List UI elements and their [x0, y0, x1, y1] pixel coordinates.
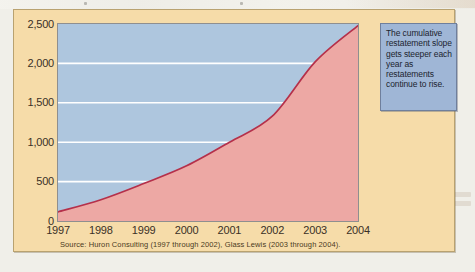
x-tick-label: 2002	[252, 224, 292, 236]
scan-speck	[240, 2, 243, 5]
scan-tint	[345, 0, 475, 8]
y-tick-label: 2,000	[14, 58, 54, 69]
callout-box: The cumulative restatement slope gets st…	[380, 23, 457, 111]
x-axis: 19971998199920002001200220032004	[57, 224, 359, 238]
y-tick-label: 2,500	[14, 19, 54, 30]
source-note: Source: Huron Consulting (1997 through 2…	[60, 240, 340, 249]
chart-panel: 05001,0001,5002,0002,500 199719981999200…	[13, 9, 455, 252]
x-tick-label: 2001	[209, 224, 249, 236]
y-tick-label: 1,000	[14, 137, 54, 148]
y-tick-label: 500	[14, 176, 54, 187]
scan-speck	[84, 2, 87, 5]
x-tick-label: 1999	[124, 224, 164, 236]
y-axis: 05001,0001,5002,0002,500	[14, 23, 54, 222]
y-tick-label: 1,500	[14, 97, 54, 108]
x-tick-label: 1998	[81, 224, 121, 236]
page-canvas: 05001,0001,5002,0002,500 199719981999200…	[0, 0, 475, 272]
callout-text: The cumulative restatement slope gets st…	[386, 28, 452, 90]
x-tick-label: 2004	[338, 224, 378, 236]
x-tick-label: 2000	[167, 224, 207, 236]
area-chart-svg	[58, 24, 358, 221]
area-fill	[58, 26, 358, 221]
plot-area	[57, 23, 359, 222]
x-tick-label: 2003	[295, 224, 335, 236]
x-tick-label: 1997	[38, 224, 78, 236]
